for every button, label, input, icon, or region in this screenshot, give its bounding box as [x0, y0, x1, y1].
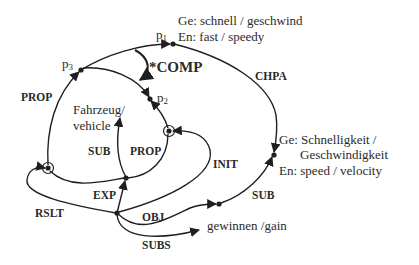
p1-sub: 1: [163, 33, 168, 43]
node-p3: [78, 67, 83, 72]
label-comp: *COMP: [149, 60, 202, 75]
label-p2: p2: [157, 91, 168, 106]
node-p2: [147, 96, 152, 101]
edge-exp: [117, 181, 125, 213]
node-speed: [271, 152, 276, 157]
edge-sub-left: [50, 171, 124, 183]
concept-vehicle-1: Fahrzeug/: [73, 103, 125, 116]
concept-fast-ge: Ge: schnell / geschwind: [178, 14, 303, 27]
label-prop-inner: PROP: [130, 146, 161, 158]
label-obj: OBJ: [142, 212, 164, 224]
node-right-circled: [166, 128, 171, 133]
label-exp: EXP: [93, 190, 116, 202]
concept-vehicle-2: vehicle: [73, 119, 111, 132]
concept-speed-en: En: speed / velocity: [279, 164, 382, 177]
node-lower: [114, 210, 119, 215]
concept-speed-ge1: Ge: Schnelligkeit /: [279, 133, 376, 146]
concept-fast-en: En: fast / speedy: [178, 30, 264, 43]
label-sub-right: SUB: [252, 190, 274, 202]
node-left-circled: [45, 165, 50, 170]
edge-init: [119, 131, 210, 212]
node-gain-junction: [216, 201, 221, 206]
semantic-network-diagram: p1 p3 p2 *COMP PROP SUB PROP CHPA INIT E…: [0, 0, 419, 265]
edge-sub-vehicle: [118, 118, 126, 177]
label-p1: p1: [156, 28, 167, 43]
edge-obj: [118, 204, 216, 225]
concept-gain: gewinnen /gain: [207, 219, 287, 232]
label-prop-left: PROP: [21, 92, 52, 104]
label-rslt: RSLT: [35, 208, 64, 220]
label-subs: SUBS: [142, 240, 171, 252]
label-init: INIT: [213, 159, 238, 171]
label-chpa: CHPA: [255, 71, 287, 83]
edge-p3-p2: [83, 68, 149, 97]
label-sub-inner: SUB: [88, 146, 110, 158]
concept-speed-ge2: Geschwindigkeit: [300, 148, 388, 161]
edge-comp: [135, 50, 148, 80]
p3-sub: 3: [69, 62, 74, 72]
label-p3: p3: [62, 57, 73, 72]
node-middle: [123, 175, 128, 180]
p2-sub: 2: [164, 96, 169, 106]
node-p1: [170, 41, 175, 46]
